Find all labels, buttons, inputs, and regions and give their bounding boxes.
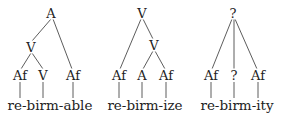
tree-1-leaf-node-3: Af [65,69,81,82]
tree-3-leaf-node-3: Af [250,69,266,82]
tree-1-leaf-node-2: V [37,69,48,82]
tree-1-word: re-birm-able [8,98,93,112]
tree-1-mid-node: V [25,41,36,54]
tree-2-leaf-node-2: A [136,69,147,82]
tree-1-root-node: A [45,7,56,20]
tree-3-leaf-node-1: Af [203,69,219,82]
tree-2-branches [119,19,166,99]
tree-2-leaf-node-3: Af [158,69,174,82]
tree-1-leaf-node-1: Af [12,69,28,82]
tree-2-mid-node: V [148,39,159,52]
tree-2-root-node: V [136,7,147,20]
tree-3-word: re-birm-ity [200,98,273,112]
tree-1-branches [20,19,73,99]
tree-3-root-node: ? [229,7,238,20]
tree-3-leaf-node-2: ? [230,69,239,82]
tree-2-leaf-node-1: Af [111,69,127,82]
tree-2-word: re-birm-ize [107,98,182,112]
tree-3-branches [211,19,258,99]
